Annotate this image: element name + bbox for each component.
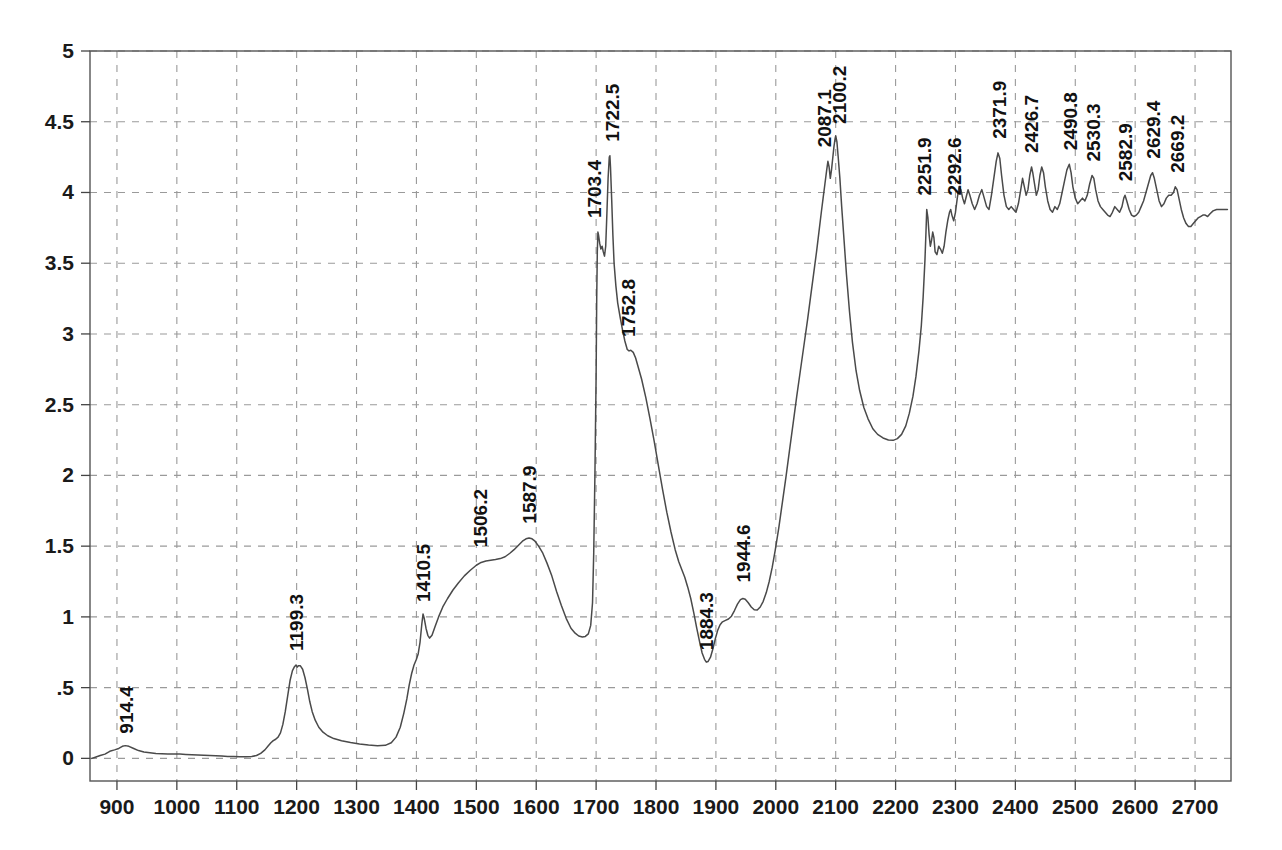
y-gridlines xyxy=(90,51,1231,758)
peak-label: 2371.9 xyxy=(989,81,1010,139)
spectrum-trace xyxy=(92,136,1228,758)
x-tick-label: 1000 xyxy=(153,795,200,818)
x-tick-label: 1300 xyxy=(333,795,380,818)
x-tick-label: 1500 xyxy=(453,795,500,818)
spectrum-chart: 0.511.522.533.544.55 9001000110012001300… xyxy=(0,0,1282,850)
x-tick-label: 1100 xyxy=(214,795,260,818)
peak-label: 1410.5 xyxy=(413,544,434,603)
x-tick-label: 2200 xyxy=(872,795,919,818)
x-tick-label: 2600 xyxy=(1112,795,1159,818)
x-tick-label: 2100 xyxy=(812,795,859,818)
x-axis-tick-labels: 9001000110012001300140015001600170018001… xyxy=(99,795,1218,818)
peak-label: 2530.3 xyxy=(1083,103,1104,161)
peak-label: 1752.8 xyxy=(618,279,639,337)
x-tickmarks xyxy=(117,781,1195,790)
y-tick-label: .5 xyxy=(56,676,74,699)
peak-label: 2100.2 xyxy=(829,66,850,124)
peak-label: 1587.9 xyxy=(519,466,540,524)
x-tick-label: 1700 xyxy=(573,795,620,818)
spectrum-svg: 0.511.522.533.544.55 9001000110012001300… xyxy=(0,0,1282,850)
peak-label: 914.4 xyxy=(116,686,137,734)
peak-label: 2426.7 xyxy=(1021,95,1042,153)
y-tick-label: 3 xyxy=(62,322,74,345)
peak-label: 1199.3 xyxy=(286,594,307,651)
x-tick-label: 2300 xyxy=(932,795,979,818)
peak-label: 2490.8 xyxy=(1060,92,1081,150)
y-tick-label: 1.5 xyxy=(45,534,75,557)
x-tick-label: 1800 xyxy=(633,795,680,818)
y-tick-label: 4.5 xyxy=(45,110,75,133)
y-tick-label: 4 xyxy=(62,180,74,203)
y-tickmarks xyxy=(81,51,90,758)
y-axis-tick-labels: 0.511.522.533.544.55 xyxy=(45,39,75,769)
y-tick-label: 2.5 xyxy=(45,393,75,416)
x-tick-label: 2500 xyxy=(1052,795,1099,818)
peak-label: 1944.6 xyxy=(733,524,754,582)
y-tick-label: 3.5 xyxy=(45,251,75,274)
x-tick-label: 1400 xyxy=(393,795,440,818)
x-tick-label: 1900 xyxy=(693,795,740,818)
peak-label: 2669.2 xyxy=(1167,115,1188,173)
x-gridlines xyxy=(117,51,1195,781)
x-tick-label: 2400 xyxy=(992,795,1039,818)
x-tick-label: 2000 xyxy=(752,795,799,818)
x-tick-label: 1200 xyxy=(273,795,320,818)
plot-frame xyxy=(90,51,1231,781)
peak-label: 2292.6 xyxy=(944,137,965,195)
peak-label: 2629.4 xyxy=(1143,100,1164,159)
y-tick-label: 2 xyxy=(62,463,74,486)
y-tick-label: 0 xyxy=(62,746,74,769)
x-tick-label: 900 xyxy=(99,795,134,818)
peak-label: 1703.4 xyxy=(584,160,605,219)
y-tick-label: 1 xyxy=(62,605,74,628)
peak-label: 2251.9 xyxy=(914,137,935,195)
peak-label: 1722.5 xyxy=(602,83,623,142)
y-tick-label: 5 xyxy=(62,39,74,62)
peak-label: 2582.9 xyxy=(1115,123,1136,181)
peak-label: 1506.2 xyxy=(470,489,491,547)
peak-annotations: 914.41199.31410.51506.21587.91703.41722.… xyxy=(116,66,1188,734)
x-tick-label: 1600 xyxy=(513,795,560,818)
peak-label: 1884.3 xyxy=(696,592,717,650)
x-tick-label: 2700 xyxy=(1172,795,1219,818)
